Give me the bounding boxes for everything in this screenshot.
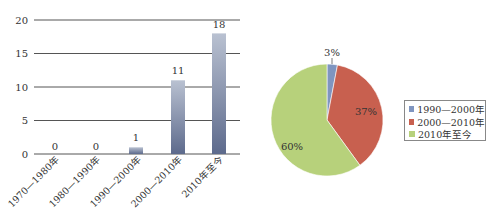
pie-label: 37%: [355, 106, 377, 117]
legend-item: 2010年至今: [409, 128, 485, 141]
legend-label: 2010年至今: [418, 127, 472, 141]
legend-item: 1990—2000年: [409, 103, 485, 116]
legend-item: 2000—2010年: [409, 116, 485, 129]
legend-swatch-icon: [409, 119, 414, 125]
legend-swatch-icon: [409, 106, 414, 112]
pie-label: 3%: [324, 47, 340, 58]
legend-swatch-icon: [409, 131, 415, 137]
pie-label: 60%: [281, 141, 303, 152]
pie-legend: 1990—2000年 2000—2010年 2010年至今: [404, 100, 486, 141]
